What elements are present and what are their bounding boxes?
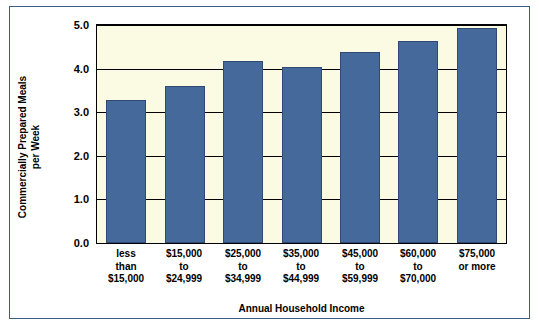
bar-series [97,25,506,243]
y-axis-tick-label: 5.0 [55,19,89,31]
x-axis-tick-label: $15,000to$24,999 [155,248,213,286]
x-axis-tick-label-line: to [272,261,330,274]
chart-frame: Commercially Prepared Mealsper Week 0.01… [9,6,530,319]
x-axis-tick-labels: lessthan$15,000$15,000to$24,999$25,000to… [97,248,506,300]
x-axis-tick-label-line: to [214,261,272,274]
bar [282,67,322,243]
x-axis-tick-label: $75,000or more [448,248,506,273]
x-axis-tick-label: $25,000to$34,999 [214,248,272,286]
y-axis-title-line-1: Commercially Prepared Meals [16,76,29,218]
x-axis-tick-label-line: to [155,261,213,274]
x-axis-tick-label-line: $45,000 [331,248,389,261]
x-axis-tick-label-line: to [331,261,389,274]
x-axis-title: Annual Household Income [96,303,507,314]
x-axis-tick-label: $60,000to$70,000 [389,248,447,286]
x-axis-tick-label-line: less [97,248,155,261]
y-axis-tick-label: 0.0 [55,237,89,249]
bar [398,41,438,243]
x-axis-tick-label: $35,000to$44,999 [272,248,330,286]
x-axis-tick-label: $45,000to$59,999 [331,248,389,286]
y-axis-tick-label: 3.0 [55,106,89,118]
y-axis-tick-label: 2.0 [55,150,89,162]
x-axis-tick-label-line: $70,000 [389,273,447,286]
bar [457,28,497,243]
x-axis-tick-label-line: $35,000 [272,248,330,261]
bar [340,52,380,243]
x-axis-tick-label-line: $75,000 [448,248,506,261]
x-axis-tick-label-line: to [389,261,447,274]
y-axis-title-line-2: per Week [29,76,42,218]
x-axis-tick-label-line: $34,999 [214,273,272,286]
x-axis-tick-label-line: $60,000 [389,248,447,261]
x-axis-tick-label-line: $15,000 [155,248,213,261]
x-axis-tick-label-line: or more [448,261,506,274]
y-axis-title: Commercially Prepared Mealsper Week [14,27,44,267]
bar [165,86,205,243]
x-axis-tick-label-line: than [97,261,155,274]
y-axis-title-text: Commercially Prepared Mealsper Week [16,76,42,218]
x-axis-tick-label-line: $25,000 [214,248,272,261]
x-axis-tick-label-line: $44,999 [272,273,330,286]
x-axis-tick-label: lessthan$15,000 [97,248,155,286]
y-axis-tick-label: 1.0 [55,193,89,205]
bar [223,61,263,243]
x-axis-tick-label-line: $24,999 [155,273,213,286]
y-axis-tick-label: 4.0 [55,63,89,75]
x-axis-tick-label-line: $15,000 [97,273,155,286]
x-axis-tick-label-line: $59,999 [331,273,389,286]
bar [106,100,146,243]
